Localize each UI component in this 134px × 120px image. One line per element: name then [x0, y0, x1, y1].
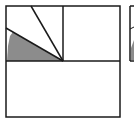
geometry-diagram [0, 0, 134, 120]
partial-adjacent-figure [130, 6, 134, 61]
